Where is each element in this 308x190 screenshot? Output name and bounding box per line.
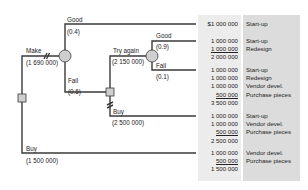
chance-node-2 [146, 50, 158, 62]
fail-label-2: Fail [156, 62, 166, 69]
root-decision-node [18, 94, 26, 102]
good-label-2: Good [156, 32, 171, 39]
outcome-5-amounts: 1 000 000 500 000 1 500 000 [196, 149, 238, 174]
good-prob-2: (0.9) [156, 43, 169, 50]
buy-value-1: (1 500 000) [26, 157, 58, 164]
make-value: (1 690 000) [26, 59, 58, 66]
buy-branch-line [22, 102, 196, 153]
fail-prob-2: (0.1) [156, 73, 169, 80]
fail-prob-1: (0.6) [68, 88, 81, 95]
outcome-2-amounts: 1 000 000 1 000 000 2 000 000 [196, 37, 238, 62]
chance-node-1 [59, 50, 71, 62]
good-prob-1: (0.4) [67, 28, 80, 35]
try-again-label: Try again [113, 47, 139, 54]
buy-label-2: Buy [113, 108, 124, 115]
buy-value-2: (2 500 000) [112, 119, 144, 126]
outcome-2-labels: Start-up Redesign [246, 37, 272, 53]
outcome-3-labels: Start-up Redesign Vendor devel. Purchase… [246, 66, 291, 99]
try-again-value: (2 150 000) [112, 58, 144, 65]
outcome-5-labels: Vendor devel. Purchase pieces [246, 149, 291, 165]
buy-label-1: Buy [26, 145, 37, 152]
outcome-3-amounts: 1 000 000 1 000 000 1 000 000 500 000 3 … [196, 66, 238, 107]
outcome-4-labels: Start-up Vendor devel. Purchase pieces [246, 112, 291, 137]
make-label: Make [26, 47, 41, 54]
outcome-4-amounts: 1 000 000 1 000 000 500 000 2 500 000 [196, 112, 238, 145]
decision-node-2 [106, 88, 114, 96]
outcome-1-labels: Start-up [246, 20, 268, 28]
good-label-1: Good [67, 16, 82, 23]
outcome-1-amounts: $1 000 000 [196, 20, 238, 28]
fail-label-1: Fail [68, 77, 78, 84]
